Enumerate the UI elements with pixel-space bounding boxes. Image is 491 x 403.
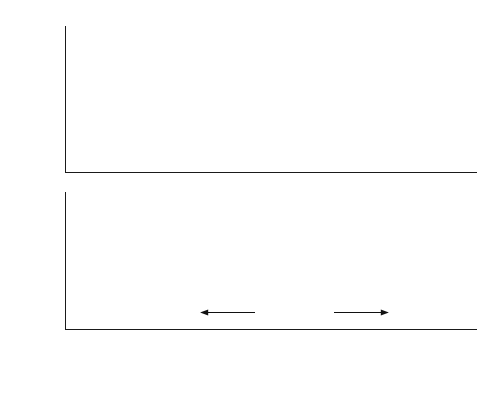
top-plot-area: [66, 27, 466, 172]
top-x-axis-line: [65, 172, 477, 173]
figure-root: [0, 0, 491, 403]
bottom-plot-area: [66, 193, 466, 330]
panel-contaminated-waste: [0, 182, 491, 403]
no-fluid-left-arrow: [197, 308, 259, 317]
no-fluid-right-arrow: [330, 308, 392, 317]
x-axis: [66, 330, 478, 400]
panel-earthquake-frequency: [0, 0, 491, 182]
no-fluid-annotation: [258, 292, 328, 303]
